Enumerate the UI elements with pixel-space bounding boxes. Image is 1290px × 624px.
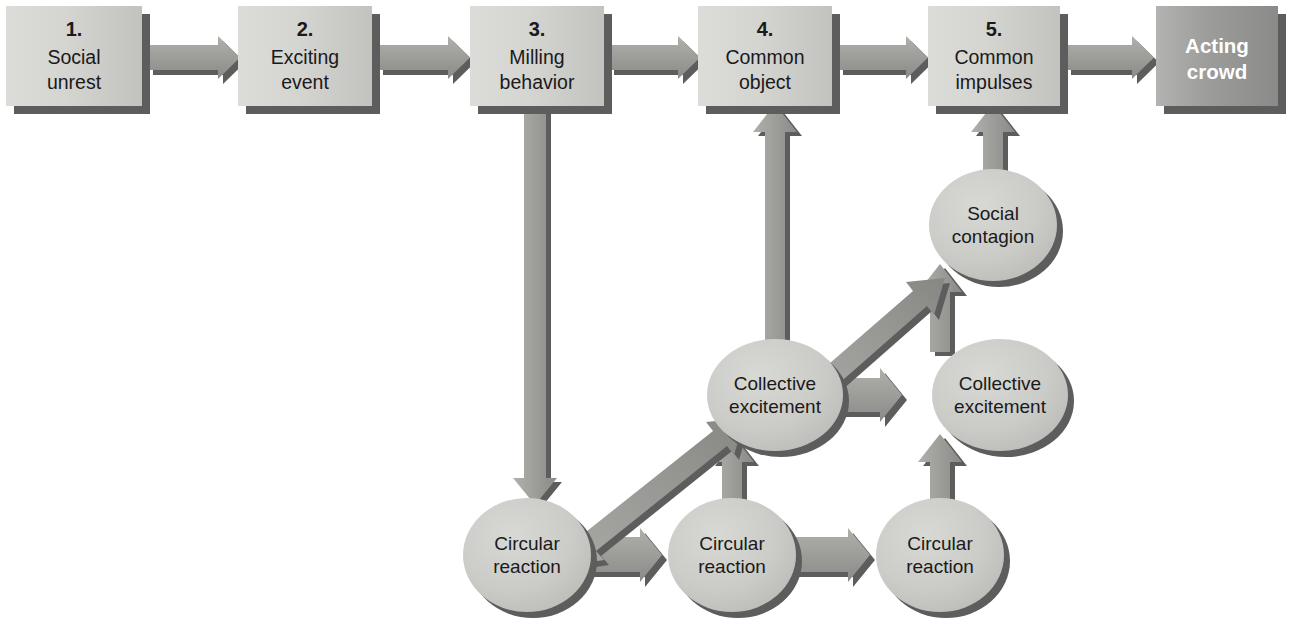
node-circular-reaction-1[interactable]: Circular reaction bbox=[463, 498, 597, 618]
node-social-contagion-line2: contagion bbox=[952, 226, 1034, 247]
arrow-stage5-to-acting-crowd bbox=[1066, 36, 1159, 84]
stage-box-2-line1: Exciting bbox=[271, 46, 339, 68]
stage-box-3-line2: behavior bbox=[500, 71, 575, 93]
stage-box-3-line1: Milling bbox=[509, 46, 564, 68]
flow-diagram: Circular reaction Circular reaction Circ… bbox=[0, 0, 1290, 624]
stage-box-1[interactable]: 1. Social unrest bbox=[6, 6, 150, 114]
stage-box-1-line2: unrest bbox=[47, 71, 102, 93]
node-collective-excitement-1-line2: excitement bbox=[729, 396, 822, 417]
node-social-contagion[interactable]: Social contagion bbox=[929, 169, 1063, 287]
stage-box-2-number: 2. bbox=[297, 18, 314, 40]
arrow-stage3-to-stage4 bbox=[609, 36, 705, 84]
node-circular-reaction-3[interactable]: Circular reaction bbox=[876, 498, 1010, 618]
stage-box-2-line2: event bbox=[281, 71, 329, 93]
stage-box-4[interactable]: 4. Common object bbox=[698, 6, 840, 114]
stage-box-4-number: 4. bbox=[757, 18, 774, 40]
node-collective-excitement-2[interactable]: Collective excitement bbox=[932, 339, 1074, 457]
stage-box-1-number: 1. bbox=[66, 18, 83, 40]
node-collective-excitement-2-line1: Collective bbox=[959, 373, 1041, 394]
stage-box-5-number: 5. bbox=[986, 18, 1003, 40]
node-circular-reaction-3-line1: Circular bbox=[907, 533, 973, 554]
arrow-stage1-to-stage2 bbox=[148, 36, 245, 84]
stage-box-2[interactable]: 2. Exciting event bbox=[238, 6, 380, 114]
node-circular-reaction-3-line2: reaction bbox=[906, 556, 974, 577]
stage-box-4-line2: object bbox=[739, 71, 792, 93]
node-circular-reaction-1-line2: reaction bbox=[493, 556, 561, 577]
node-circular-reaction-1-line1: Circular bbox=[494, 533, 560, 554]
stage-box-1-line1: Social bbox=[47, 46, 100, 68]
arrow-stage2-to-stage3 bbox=[378, 36, 475, 84]
flow-diagram-canvas: Circular reaction Circular reaction Circ… bbox=[0, 0, 1290, 624]
node-circular-reaction-2[interactable]: Circular reaction bbox=[668, 498, 802, 618]
acting-crowd-box[interactable]: Acting crowd bbox=[1156, 6, 1286, 114]
stage-box-5-line2: impulses bbox=[956, 71, 1033, 93]
node-circular-reaction-2-line1: Circular bbox=[699, 533, 765, 554]
node-social-contagion-line1: Social bbox=[967, 203, 1019, 224]
acting-crowd-line2: crowd bbox=[1187, 60, 1247, 83]
stage-box-5[interactable]: 5. Common impulses bbox=[928, 6, 1068, 114]
arrow-stage3-to-circular1 bbox=[513, 105, 562, 509]
stage-box-4-line1: Common bbox=[725, 46, 804, 68]
node-circular-reaction-2-line2: reaction bbox=[698, 556, 766, 577]
stage-box-5-line1: Common bbox=[954, 46, 1033, 68]
arrow-stage4-to-stage5 bbox=[838, 36, 933, 84]
acting-crowd-line1: Acting bbox=[1185, 34, 1249, 57]
node-collective-excitement-1-line1: Collective bbox=[734, 373, 816, 394]
stage-box-3-number: 3. bbox=[529, 18, 546, 40]
arrow-collective1-to-stage4 bbox=[753, 104, 802, 344]
stage-box-3[interactable]: 3. Milling behavior bbox=[470, 6, 612, 114]
node-collective-excitement-2-line2: excitement bbox=[954, 396, 1047, 417]
